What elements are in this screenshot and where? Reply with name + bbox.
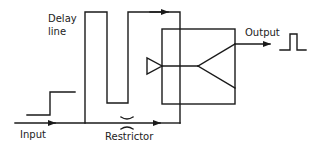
- element-upper-branch: [198, 44, 235, 66]
- input-step-waveform: [27, 92, 75, 115]
- label-input: Input: [20, 129, 46, 140]
- label-restrictor: Restrictor: [105, 131, 154, 142]
- label-delay-line-2: line: [48, 26, 66, 37]
- control-port-triangle-icon: [147, 58, 162, 74]
- element-lower-branch: [198, 66, 235, 88]
- delay-line-channel: [85, 12, 165, 123]
- label-delay-line-1: Delay: [48, 13, 77, 24]
- output-pulse-waveform: [280, 34, 306, 50]
- diagram-canvas: Delay line Input Restrictor Output: [0, 0, 318, 147]
- label-output: Output: [245, 27, 280, 38]
